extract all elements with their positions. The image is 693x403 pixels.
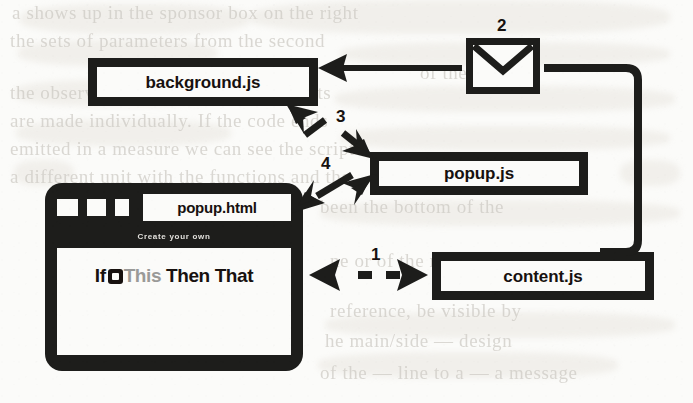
node-background-js[interactable]: background.js: [88, 58, 318, 106]
browser-window-popup-html[interactable]: popup.html Create your own IfThis Then T…: [45, 183, 303, 371]
envelope-flap-icon: [473, 45, 533, 87]
step-number-2: 2: [497, 17, 506, 34]
tab-popup-html-label: popup.html: [177, 199, 257, 216]
tab-square-3[interactable]: [115, 199, 129, 216]
tab-popup-html[interactable]: popup.html: [143, 194, 291, 221]
envelope-icon[interactable]: [466, 38, 540, 94]
diagram-layer: background.js popup.js content.js: [0, 0, 693, 403]
ifttt-tagline: IfThis Then That: [57, 265, 291, 287]
tab-square-1[interactable]: [57, 199, 78, 216]
figure-canvas: a shows up in the sponsor box on the rig…: [0, 0, 693, 403]
step-number-1: 1: [371, 246, 380, 263]
ifttt-header-text: Create your own: [137, 232, 210, 241]
step-number-4: 4: [321, 155, 330, 172]
node-content-js-label: content.js: [503, 267, 582, 284]
node-background-js-label: background.js: [146, 73, 261, 90]
node-popup-js-label: popup.js: [444, 165, 514, 182]
ifttt-square-icon: [108, 269, 123, 284]
step-number-3: 3: [336, 108, 345, 125]
tab-square-2[interactable]: [87, 199, 106, 216]
browser-tab-strip: popup.html: [57, 194, 291, 221]
node-popup-js[interactable]: popup.js: [370, 152, 588, 195]
ifttt-page-header: Create your own: [57, 224, 291, 248]
node-content-js[interactable]: content.js: [432, 252, 654, 300]
ifttt-tagline-prefix: If: [95, 265, 106, 286]
ifttt-tagline-suffix: Then That: [166, 265, 253, 286]
browser-viewport: Create your own IfThis Then That: [57, 224, 291, 355]
ifttt-tagline-this: This: [124, 265, 161, 286]
